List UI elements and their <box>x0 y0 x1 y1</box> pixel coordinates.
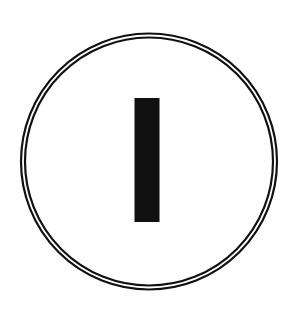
power-on-icon <box>0 0 297 318</box>
on-bar <box>135 98 160 222</box>
